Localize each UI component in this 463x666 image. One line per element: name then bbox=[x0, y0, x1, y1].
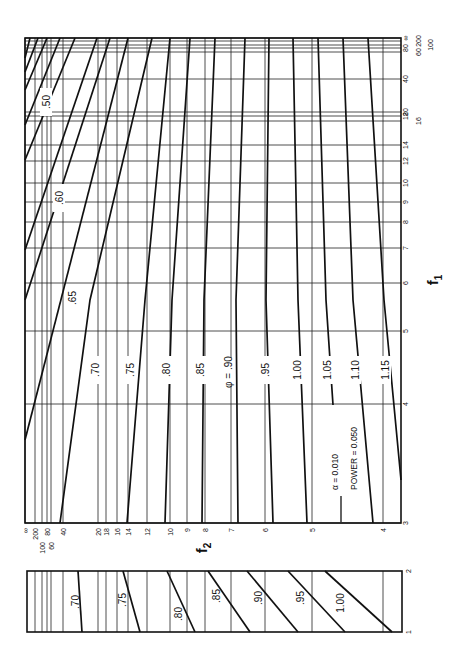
power-annotation: POWER = 0.050 bbox=[349, 427, 359, 490]
curve-label: .80 bbox=[161, 363, 172, 377]
f1-tick-label: 10 bbox=[402, 179, 409, 187]
f2-tick-label: 12 bbox=[144, 528, 151, 536]
f2-tick-label: 18 bbox=[103, 528, 110, 536]
f2-tick-label: ∞ bbox=[22, 528, 29, 533]
aux-curve-label: .70 bbox=[70, 595, 81, 609]
aux-curve-label: .80 bbox=[173, 607, 184, 621]
aux-curve-label: .85 bbox=[211, 589, 222, 603]
power-curve bbox=[202, 38, 215, 523]
power-curve bbox=[318, 38, 333, 405]
curve-label: 1.15 bbox=[380, 360, 391, 380]
alpha-annotation: α = 0.010 bbox=[330, 454, 340, 490]
curve-label: .60 bbox=[54, 191, 65, 205]
main-chart-curve-labels: .50.60.65.70.75.80.85φ = .90.951.001.051… bbox=[40, 88, 391, 388]
f1-axis-ticks: ∞2001008060402018161412109876543 bbox=[402, 35, 434, 525]
curve-label: 1.05 bbox=[322, 360, 333, 380]
f1-tick-label: 80 bbox=[402, 44, 409, 52]
aux-curve-label: .75 bbox=[117, 593, 128, 607]
f2-tick-label: 14 bbox=[125, 528, 132, 536]
curve-label: 1.00 bbox=[292, 360, 303, 380]
f1-tick-label: 40 bbox=[402, 75, 409, 83]
aux-tick-label: 1 bbox=[405, 630, 412, 634]
power-curve bbox=[165, 38, 190, 523]
curve-label: .50 bbox=[41, 95, 52, 109]
f2-tick-label: 9 bbox=[184, 528, 191, 532]
curve-label: .65 bbox=[67, 291, 78, 305]
f2-tick-label: 100 bbox=[39, 542, 46, 554]
f2-tick-label: 4 bbox=[380, 528, 387, 532]
aux-curve bbox=[167, 571, 195, 632]
curve-label: .95 bbox=[260, 363, 271, 377]
f2-tick-label: 80 bbox=[44, 528, 51, 536]
power-curve bbox=[236, 38, 245, 523]
f1-tick-label: 12 bbox=[402, 157, 409, 165]
f2-tick-label: 200 bbox=[32, 528, 39, 540]
aux-curve-label: .95 bbox=[295, 591, 306, 605]
aux-curve-label: .90 bbox=[253, 591, 264, 605]
curve-label: .85 bbox=[195, 363, 206, 377]
power-curve bbox=[25, 38, 110, 300]
aux-panel-grid bbox=[35, 571, 383, 632]
f1-tick-label: 5 bbox=[402, 329, 409, 333]
f2-tick-label: 5 bbox=[309, 528, 316, 532]
f2-tick-label: 8 bbox=[202, 528, 209, 532]
f1-tick-label: 6 bbox=[402, 281, 409, 285]
aux-panel-labels: .70.75.80.85.90.951.00 bbox=[70, 589, 346, 621]
curve-label: φ = .90 bbox=[223, 356, 234, 388]
main-chart-frame bbox=[25, 38, 401, 523]
f1-tick-label: 60 bbox=[415, 48, 422, 56]
main-chart-curves bbox=[25, 38, 401, 523]
power-curve bbox=[25, 38, 97, 250]
power-curve bbox=[293, 38, 307, 523]
f1-tick-label: 14 bbox=[402, 141, 409, 149]
curve-label: 1.10 bbox=[350, 360, 361, 380]
power-curve bbox=[25, 38, 38, 72]
power-curve bbox=[266, 38, 273, 523]
power-chart: .50.60.65.70.75.80.85φ = .90.951.001.051… bbox=[0, 0, 463, 666]
f2-tick-label: 7 bbox=[228, 528, 235, 532]
f1-tick-label: 16 bbox=[415, 117, 422, 125]
f1-tick-label: 100 bbox=[427, 39, 434, 51]
aux-tick-label: 2 bbox=[405, 569, 412, 573]
main-chart-grid bbox=[25, 38, 401, 523]
f2-tick-label: 10 bbox=[167, 528, 174, 536]
curve-label: .70 bbox=[90, 363, 101, 377]
f2-tick-label: 20 bbox=[95, 528, 102, 536]
power-curve bbox=[127, 38, 170, 523]
curve-label: .75 bbox=[125, 363, 136, 377]
f1-tick-label: 8 bbox=[402, 220, 409, 224]
f1-tick-label: 18 bbox=[402, 112, 409, 120]
f1-tick-label: 4 bbox=[402, 402, 409, 406]
f2-axis-title: f2 bbox=[193, 542, 213, 553]
f2-tick-label: 60 bbox=[48, 542, 55, 550]
aux-curve-label: 1.00 bbox=[335, 593, 346, 613]
f2-tick-label: 40 bbox=[60, 528, 67, 536]
f1-tick-label: 200 bbox=[415, 35, 422, 47]
f1-tick-label: 3 bbox=[402, 521, 409, 525]
f1-tick-label: 9 bbox=[402, 200, 409, 204]
f2-tick-label: 16 bbox=[114, 528, 121, 536]
power-curve bbox=[368, 38, 401, 480]
f1-axis-title: f1 bbox=[424, 274, 444, 285]
f1-tick-label: ∞ bbox=[402, 36, 409, 41]
f1-tick-label: 7 bbox=[402, 246, 409, 250]
f2-tick-label: 6 bbox=[262, 528, 269, 532]
